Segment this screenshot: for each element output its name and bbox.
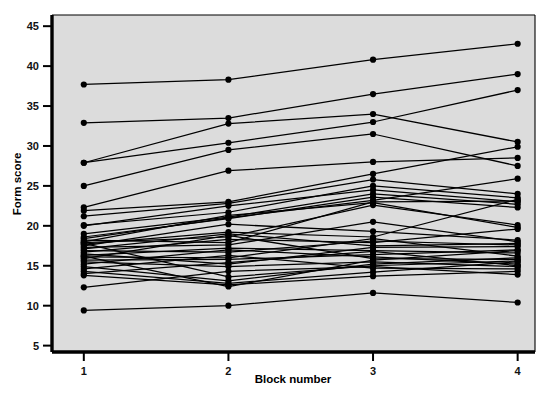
y-tick-label: 5	[33, 340, 39, 352]
data-point-marker	[370, 119, 376, 125]
data-point-marker	[515, 176, 521, 182]
data-point-marker	[515, 41, 521, 47]
x-tick-label: 1	[81, 365, 87, 377]
data-point-marker	[225, 259, 231, 265]
y-tick-label: 40	[27, 60, 39, 72]
data-point-marker	[225, 221, 231, 227]
data-point-marker	[515, 196, 521, 202]
y-tick-label: 45	[27, 20, 39, 32]
y-tick-label: 25	[27, 180, 39, 192]
y-tick-label: 15	[27, 260, 39, 272]
data-point-marker	[225, 115, 231, 121]
x-tick-label: 2	[225, 365, 231, 377]
chart-canvas: 51015202530354045 1234 Block number Form…	[0, 0, 547, 402]
data-point-marker	[370, 131, 376, 137]
data-point-marker	[225, 252, 231, 258]
data-point-marker	[81, 223, 87, 229]
data-point-marker	[515, 71, 521, 77]
data-point-marker	[515, 144, 521, 150]
data-point-marker	[515, 204, 521, 210]
data-point-marker	[370, 236, 376, 242]
data-point-marker	[225, 121, 231, 127]
data-point-marker	[370, 171, 376, 177]
data-point-marker	[370, 273, 376, 279]
data-point-marker	[225, 140, 231, 146]
data-point-marker	[515, 271, 521, 277]
data-point-marker	[370, 228, 376, 234]
data-point-marker	[370, 176, 376, 182]
data-point-marker	[225, 247, 231, 253]
data-point-marker	[81, 208, 87, 214]
data-point-marker	[370, 219, 376, 225]
y-tick-label: 35	[27, 100, 39, 112]
data-point-marker	[225, 168, 231, 174]
data-point-marker	[81, 183, 87, 189]
data-point-marker	[515, 155, 521, 161]
data-point-marker	[81, 120, 87, 126]
form-score-line-chart: 51015202530354045 1234 Block number Form…	[0, 0, 547, 402]
data-point-marker	[225, 203, 231, 209]
data-point-marker	[515, 247, 521, 253]
data-point-marker	[81, 272, 87, 278]
data-point-marker	[225, 274, 231, 280]
data-point-marker	[225, 212, 231, 218]
y-tick-label: 30	[27, 140, 39, 152]
data-point-marker	[225, 147, 231, 153]
plot-area-background	[52, 15, 535, 352]
data-point-marker	[370, 91, 376, 97]
data-point-marker	[225, 232, 231, 238]
data-point-marker	[81, 160, 87, 166]
x-tick-label: 3	[370, 365, 376, 377]
data-point-marker	[81, 307, 87, 313]
data-point-marker	[515, 299, 521, 305]
data-point-marker	[225, 283, 231, 289]
x-axis-title: Block number	[255, 373, 332, 385]
data-point-marker	[81, 81, 87, 87]
data-point-marker	[370, 202, 376, 208]
data-point-marker	[225, 77, 231, 83]
data-point-marker	[515, 258, 521, 264]
data-point-marker	[370, 57, 376, 63]
y-tick-label: 20	[27, 220, 39, 232]
data-point-marker	[515, 226, 521, 232]
data-point-marker	[81, 213, 87, 219]
data-point-marker	[81, 240, 87, 246]
data-point-marker	[370, 248, 376, 254]
data-point-marker	[370, 159, 376, 165]
data-point-marker	[515, 163, 521, 169]
data-point-marker	[370, 111, 376, 117]
data-point-marker	[370, 263, 376, 269]
data-point-marker	[515, 87, 521, 93]
data-point-marker	[370, 257, 376, 263]
x-tick-label: 4	[515, 365, 522, 377]
data-point-marker	[81, 253, 87, 259]
y-tick-label: 10	[27, 300, 39, 312]
data-point-marker	[225, 268, 231, 274]
data-point-marker	[81, 284, 87, 290]
data-point-marker	[370, 290, 376, 296]
y-axis-title: Form score	[11, 153, 23, 216]
data-point-marker	[225, 303, 231, 309]
